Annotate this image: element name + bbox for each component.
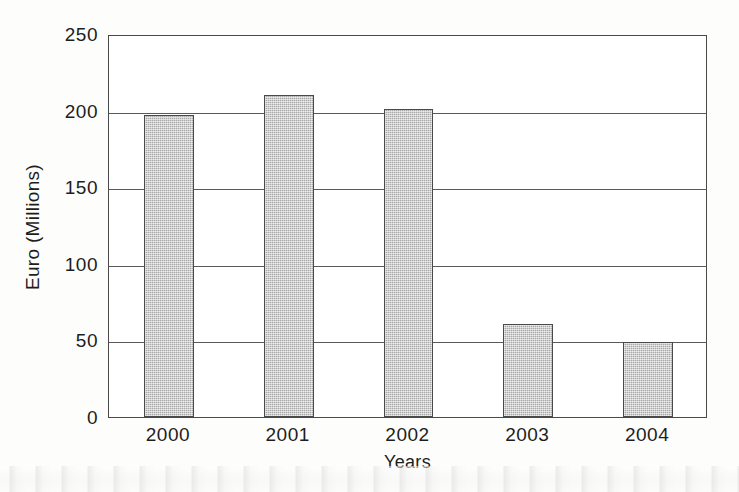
y-axis-tick-label: 100 xyxy=(44,254,98,276)
bar-2000 xyxy=(144,115,194,417)
y-axis-tick-label: 200 xyxy=(44,101,98,123)
y-axis-tick-label: 150 xyxy=(44,177,98,199)
y-axis-tick-label: 250 xyxy=(44,24,98,46)
y-axis-tick-label: 0 xyxy=(44,407,98,429)
y-axis-title: Euro (Millions) xyxy=(22,97,44,357)
x-axis-tick-label-2002: 2002 xyxy=(348,424,468,446)
y-axis-tick-label: 50 xyxy=(44,330,98,352)
plot-area xyxy=(108,35,707,418)
x-axis-tick-label-2000: 2000 xyxy=(108,424,228,446)
bar-2004 xyxy=(623,342,673,417)
x-axis-title: Years xyxy=(108,452,707,473)
bar-2003 xyxy=(503,324,553,417)
x-axis-tick-label-2003: 2003 xyxy=(467,424,587,446)
bar-chart-figure: Euro (Millions) Years 050100150200250200… xyxy=(0,0,739,492)
x-axis-tick-label-2001: 2001 xyxy=(228,424,348,446)
bar-2002 xyxy=(384,109,434,417)
bar-2001 xyxy=(264,95,314,417)
y-axis-title-holder: Euro (Millions) xyxy=(18,35,48,418)
x-axis-tick-label-2004: 2004 xyxy=(587,424,707,446)
